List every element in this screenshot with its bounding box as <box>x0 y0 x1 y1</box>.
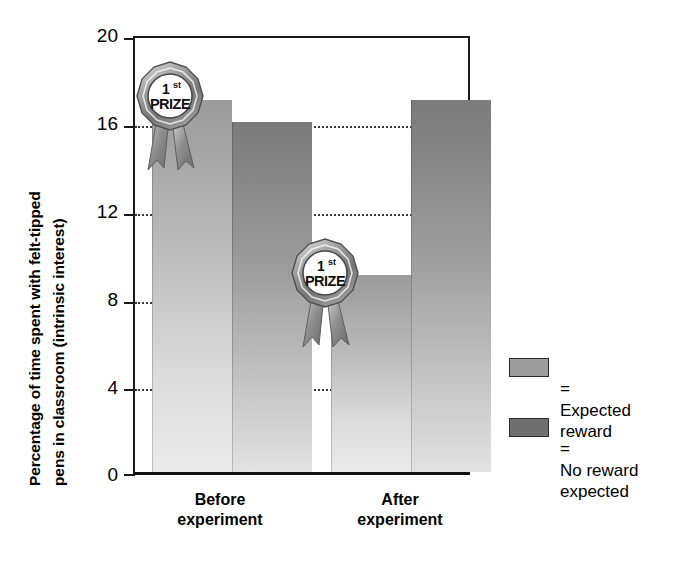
y-tick-mark-12 <box>124 214 135 216</box>
legend-item-no-reward-expected: = No reward expected <box>509 416 638 503</box>
svg-text:PRIZE: PRIZE <box>150 96 191 112</box>
x-category-after-line2: experiment <box>330 510 470 530</box>
legend-equals-sign-2: = <box>560 439 570 458</box>
y-tick-mark-20 <box>124 38 135 40</box>
legend-swatch-expected-reward <box>509 358 549 377</box>
chart-figure: Percentage of time spent with felt-tippe… <box>0 0 680 567</box>
y-tick-label-12: 12 <box>70 201 118 223</box>
svg-text:1: 1 <box>317 258 325 274</box>
y-tick-label-0: 0 <box>70 464 118 486</box>
y-tick-label-4: 4 <box>70 377 118 399</box>
y-tick-mark-8 <box>124 302 135 304</box>
y-axis-title-line2: pens in classroom (intrinsic interest) <box>50 218 68 486</box>
x-category-label-before: Before experiment <box>150 490 290 530</box>
x-category-before-line2: experiment <box>150 510 290 530</box>
first-prize-rosette-icon: 1 st PRIZE <box>126 58 218 174</box>
x-category-before-line1: Before <box>150 490 290 510</box>
y-tick-mark-0 <box>124 474 135 476</box>
legend-label-no-reward-expected: = No reward expected <box>560 416 638 503</box>
legend-series-name-2: No reward expected <box>560 461 638 502</box>
y-tick-mark-4 <box>124 389 135 391</box>
y-tick-label-8: 8 <box>70 289 118 311</box>
legend-swatch-no-reward-expected <box>509 418 549 437</box>
svg-text:st: st <box>173 80 181 90</box>
svg-text:st: st <box>328 257 336 267</box>
y-axis-title: Percentage of time spent with felt-tippe… <box>4 0 64 500</box>
legend-equals-sign: = <box>560 379 570 398</box>
y-axis-title-line1: Percentage of time spent with felt-tippe… <box>26 191 44 486</box>
first-prize-rosette-icon-2: 1 st PRIZE <box>281 235 373 351</box>
y-tick-label-16: 16 <box>70 113 118 135</box>
x-category-label-after: After experiment <box>330 490 470 530</box>
x-category-after-line1: After <box>330 490 470 510</box>
bar-edge <box>411 100 412 472</box>
y-tick-label-20: 20 <box>70 25 118 47</box>
svg-text:PRIZE: PRIZE <box>305 273 346 289</box>
svg-text:1: 1 <box>162 81 170 97</box>
bar-edge <box>232 122 233 472</box>
bar-after-no-reward-expected <box>411 100 491 472</box>
